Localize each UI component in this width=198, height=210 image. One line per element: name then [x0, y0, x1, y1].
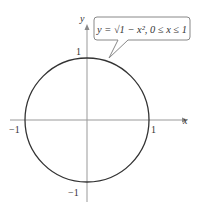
- callout-text: y = √1 − x², 0 ≤ x ≤ 1: [96, 24, 187, 35]
- x-neg-tick-label: −1: [9, 124, 20, 135]
- y-neg-tick-label: −1: [68, 187, 79, 198]
- circle-plot: x y −1 1 1 −1 y = √1 − x², 0 ≤ x ≤ 1: [0, 0, 198, 210]
- x-axis-label: x: [182, 115, 188, 126]
- y-axis-arrow-icon: [85, 24, 90, 30]
- x-pos-tick-label: 1: [151, 124, 156, 135]
- equation-callout: y = √1 − x², 0 ≤ x ≤ 1: [94, 17, 190, 58]
- y-axis-label: y: [79, 13, 85, 24]
- y-pos-tick-label: 1: [76, 46, 81, 57]
